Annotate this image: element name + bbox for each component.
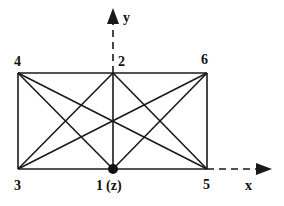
node-label-4: 4 — [14, 54, 21, 69]
y-axis-label: y — [123, 10, 130, 25]
x-axis-label: x — [245, 178, 252, 193]
node-label-2: 2 — [118, 54, 125, 69]
y-axis-arrow-icon — [107, 8, 119, 24]
node-label-1-suffix: (z) — [106, 178, 122, 194]
truss-edges — [18, 73, 207, 169]
node-label-3: 3 — [14, 178, 21, 193]
x-axis-arrow-icon — [256, 163, 272, 175]
diagram-canvas: y x 4 2 6 3 1 (z) 5 — [0, 0, 284, 206]
node-label-1: 1 — [96, 178, 103, 193]
node-label-6: 6 — [201, 52, 208, 67]
node-1-marker-icon — [108, 164, 118, 174]
node-label-5: 5 — [203, 177, 210, 192]
